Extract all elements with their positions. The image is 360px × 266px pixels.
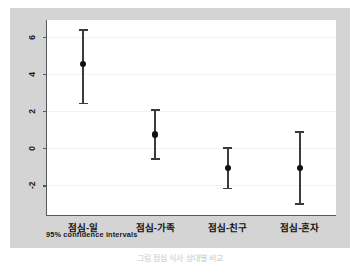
mean-marker xyxy=(297,165,303,171)
y-tick-label: 2 xyxy=(28,102,37,120)
whisker-cap-upper xyxy=(223,147,232,149)
y-tick-mark xyxy=(43,37,47,38)
whisker-cap-upper xyxy=(295,131,304,133)
chart-figure: 6420-2 점심-일점심-가족점심-친구점심-혼자 95% confidenc… xyxy=(10,8,350,248)
confidence-interval-note: 95% confidence intervals xyxy=(46,230,138,239)
mean-marker xyxy=(225,165,231,171)
gridline xyxy=(47,185,336,186)
y-tick-mark xyxy=(43,148,47,149)
whisker-cap-upper xyxy=(79,29,88,31)
plot-area: 6420-2 점심-일점심-가족점심-친구점심-혼자 xyxy=(46,20,336,216)
y-tick-mark xyxy=(43,185,47,186)
figure-caption: 그림 점심 식사 상대별 비교 xyxy=(0,252,360,263)
x-tick-label: 점심-친구 xyxy=(208,220,247,234)
y-tick-label: 0 xyxy=(28,139,37,157)
x-tick-label: 점심-가족 xyxy=(136,220,175,234)
x-tick-label: 점심-혼자 xyxy=(280,220,319,234)
y-tick-label: 4 xyxy=(28,65,37,83)
mean-marker xyxy=(152,131,158,137)
gridline xyxy=(47,111,336,112)
y-tick-mark xyxy=(43,111,47,112)
whisker-cap-lower xyxy=(151,158,160,160)
whisker-cap-lower xyxy=(79,103,88,105)
whisker-cap-lower xyxy=(295,203,304,205)
whisker-cap-upper xyxy=(151,109,160,111)
whisker-cap-lower xyxy=(223,188,232,190)
gridline xyxy=(47,37,336,38)
mean-marker xyxy=(80,61,86,67)
gridline xyxy=(47,148,336,149)
gridline xyxy=(47,74,336,75)
y-tick-label: 6 xyxy=(28,28,37,46)
y-tick-mark xyxy=(43,74,47,75)
y-tick-label: -2 xyxy=(28,177,37,195)
